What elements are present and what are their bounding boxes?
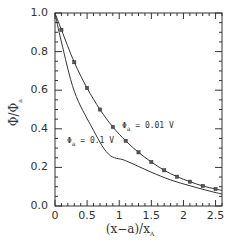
x-tick-label: 0.5 <box>75 210 99 221</box>
y-tick-label: 0.2 <box>14 161 48 172</box>
data-marker <box>188 180 191 183</box>
data-marker <box>98 108 101 111</box>
curve-phi-0.1V <box>55 13 222 194</box>
x-tick-label: 0 <box>43 210 67 221</box>
label-phi-0.01V: Φa = 0.01 V <box>122 121 174 132</box>
curve-phi-0.01V <box>55 13 222 190</box>
data-marker <box>163 169 166 172</box>
x-tick-label: 2.5 <box>204 210 228 221</box>
data-marker <box>214 187 217 190</box>
data-marker <box>201 184 204 187</box>
x-tick-label: 2 <box>171 210 195 221</box>
x-axis-title: (x−a)/xA <box>90 222 170 237</box>
data-marker <box>150 160 153 163</box>
data-marker <box>60 28 63 31</box>
data-marker <box>111 125 114 128</box>
x-ticks <box>55 13 222 206</box>
data-marker <box>175 175 178 178</box>
y-ticks <box>55 13 222 206</box>
x-tick-label: 1.5 <box>139 210 163 221</box>
data-marker <box>124 139 127 142</box>
data-marker <box>73 61 76 64</box>
y-axis-title: Φ/Φa <box>7 88 22 138</box>
x-tick-label: 1 <box>107 210 131 221</box>
y-tick-label: 1.0 <box>14 7 48 18</box>
data-marker <box>86 86 89 89</box>
data-marker <box>137 151 140 154</box>
y-tick-label: 0.8 <box>14 46 48 57</box>
plot-frame <box>55 13 222 206</box>
label-phi-0.1V: Φa = 0.1 V <box>67 136 114 147</box>
